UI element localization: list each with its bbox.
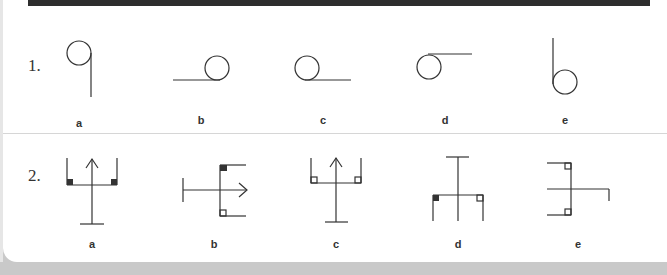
q2-figure-c[interactable]: [311, 158, 361, 222]
q1-figure-d[interactable]: [417, 54, 472, 79]
q1-figure-c[interactable]: [295, 56, 351, 80]
q2-figure-e[interactable]: [547, 163, 609, 215]
figures-canvas: [0, 0, 667, 275]
q2-figure-d[interactable]: [433, 157, 483, 221]
q1-figure-e[interactable]: [553, 38, 577, 94]
q2-figure-a[interactable]: [67, 158, 117, 224]
q2-figure-b[interactable]: [183, 165, 247, 216]
q1-figure-b[interactable]: [173, 56, 229, 80]
q1-figure-a[interactable]: [67, 41, 91, 97]
